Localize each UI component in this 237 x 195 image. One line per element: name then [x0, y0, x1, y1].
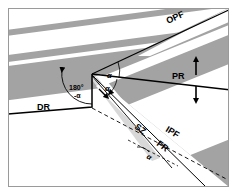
pr-label: PR	[172, 71, 185, 81]
diagram-canvas: OPF IPF PR DR SZ FR α α α 180° -α	[0, 0, 237, 195]
dr-label: DR	[37, 102, 50, 112]
diagram-figure: OPF IPF PR DR SZ FR α α α 180° -α	[0, 0, 237, 195]
supplement-minus-label: -α	[74, 92, 81, 99]
supplement-label: 180°	[69, 84, 84, 91]
alpha-lower-label: α	[105, 84, 110, 93]
alpha-upper-label: α	[107, 71, 112, 80]
